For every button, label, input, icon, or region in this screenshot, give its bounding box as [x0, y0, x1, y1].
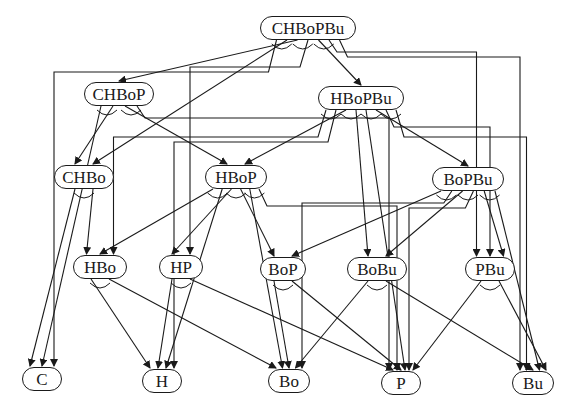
node-bop: BoP	[260, 257, 306, 281]
edge-hbo-to-h	[91, 279, 150, 368]
edge-chbopbu-to-pbu	[329, 40, 477, 256]
edge-chbop-to-p	[137, 106, 389, 370]
node-chbopbu: CHBoPBu	[260, 16, 356, 40]
decomposition-graph: CHBoPBuCHBoPHBoPBuCHBoHBoPBoPBuHBoHPBoPB…	[0, 0, 570, 410]
edge-hbo-to-bo	[109, 279, 276, 368]
edge-bop-to-p	[292, 281, 401, 370]
edge-pbu-to-bu	[499, 281, 546, 370]
edge-bop-to-bo	[274, 281, 289, 368]
edge-hbop-to-bop	[241, 189, 274, 256]
edge-bobu-to-bu	[386, 281, 533, 370]
and-arc-chbopbu	[293, 44, 313, 49]
and-arc-hbo	[90, 283, 110, 288]
edge-hbop-to-hp	[172, 189, 231, 254]
edge-chbop-to-c	[42, 106, 101, 366]
edge-bopbu-to-bop	[292, 191, 441, 256]
and-arc-pbu	[480, 285, 500, 290]
node-c: C	[22, 367, 62, 391]
and-arc-bopbu	[458, 195, 478, 200]
node-p: P	[381, 371, 421, 395]
edge-hbopbu-to-bobu	[356, 110, 368, 256]
and-arc-chbopbu	[314, 44, 334, 49]
node-bo: Bo	[268, 369, 310, 393]
edge-chbo-to-hbo	[87, 189, 94, 254]
edge-chbo-to-c	[30, 189, 75, 366]
node-hbo: HBo	[73, 255, 127, 279]
edge-bopbu-to-pbu	[484, 191, 503, 256]
edge-chbopbu-to-chbop	[119, 40, 298, 81]
edge-hbop-to-hbo	[100, 189, 213, 254]
edge-bobu-to-bo	[296, 281, 369, 368]
node-pbu: PBu	[465, 257, 515, 281]
node-chbo: CHBo	[54, 165, 114, 189]
and-arc-bobu	[367, 285, 387, 290]
and-arc-bop	[273, 285, 293, 290]
edge-hbopbu-to-h	[174, 110, 336, 368]
edge-hp-to-p	[190, 279, 393, 370]
node-chbop: CHBoP	[84, 82, 154, 106]
node-bopbu: BoPBu	[432, 167, 504, 191]
edge-pbu-to-p	[413, 281, 481, 370]
node-bobu: BoBu	[347, 257, 407, 281]
node-bu: Bu	[512, 371, 554, 395]
node-hbop: HBoP	[205, 165, 267, 189]
node-hbopbu: HBoPBu	[318, 86, 404, 110]
edge-hbopbu-to-p	[366, 110, 405, 370]
and-arc-chbop	[121, 110, 141, 115]
edge-chbop-to-hbop	[125, 106, 227, 164]
node-hp: HP	[159, 255, 203, 279]
and-arc-chbo	[74, 193, 94, 198]
edge-bopbu-to-p	[409, 191, 473, 370]
node-h: H	[142, 369, 182, 393]
edge-layer	[0, 0, 570, 410]
edge-chbopbu-to-hbopbu	[319, 40, 362, 85]
